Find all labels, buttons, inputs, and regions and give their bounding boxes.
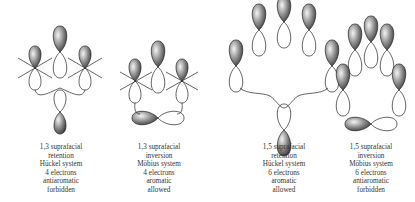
caption-line: allowed bbox=[104, 186, 214, 195]
caption-line: antiaromatic bbox=[316, 177, 415, 186]
panel-1-caption: 1,3 suprafacial retention Hückel system … bbox=[6, 143, 116, 195]
caption-line: 6 electrons bbox=[316, 169, 415, 178]
diagram-1-5-retention bbox=[229, 0, 339, 156]
panel-4-caption: 1,5 suprafacial inversion Möbius system … bbox=[316, 143, 415, 195]
caption-line: inversion bbox=[104, 152, 214, 161]
caption-line: Hückel system bbox=[6, 160, 116, 169]
diagram-1-3-retention bbox=[18, 26, 102, 134]
caption-line: antiaromatic bbox=[6, 177, 116, 186]
caption-line: inversion bbox=[316, 152, 415, 161]
caption-line: forbidden bbox=[6, 186, 116, 195]
caption-line: 4 electrons bbox=[6, 169, 116, 178]
caption-line: 4 electrons bbox=[104, 169, 214, 178]
caption-line: aromatic bbox=[104, 177, 214, 186]
caption-line: 1,3 suprafacial bbox=[6, 143, 116, 152]
caption-line: forbidden bbox=[316, 186, 415, 195]
caption-line: Möbius system bbox=[104, 160, 214, 169]
caption-line: 1,3 suprafacial bbox=[104, 143, 214, 152]
caption-line: retention bbox=[6, 152, 116, 161]
caption-line: Möbius system bbox=[316, 160, 415, 169]
diagram-1-3-inversion bbox=[120, 41, 198, 125]
diagram-1-5-inversion bbox=[336, 16, 406, 131]
panel-2-caption: 1,3 suprafacial inversion Möbius system … bbox=[104, 143, 214, 195]
caption-line: 1,5 suprafacial bbox=[316, 143, 415, 152]
